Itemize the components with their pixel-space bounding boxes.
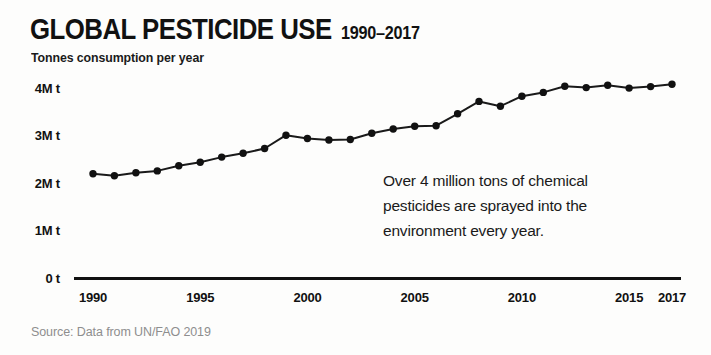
- data-point: [132, 169, 139, 176]
- data-point: [175, 162, 182, 169]
- data-point: [154, 167, 161, 174]
- chart-page: GLOBAL PESTICIDE USE 1990–2017 Tonnes co…: [0, 0, 711, 355]
- series-line: [93, 84, 672, 175]
- data-point: [197, 159, 204, 166]
- data-point: [647, 83, 654, 90]
- data-point: [454, 110, 461, 117]
- data-point: [668, 81, 675, 88]
- data-point: [604, 82, 611, 89]
- data-point: [304, 135, 311, 142]
- data-point: [497, 103, 504, 110]
- data-point: [218, 153, 225, 160]
- data-point: [625, 84, 632, 91]
- data-point: [368, 130, 375, 137]
- data-point: [540, 89, 547, 96]
- annotation-callout: Over 4 million tons of chemical pesticid…: [383, 168, 683, 243]
- data-point: [411, 123, 418, 130]
- annotation-line-1: Over 4 million tons of chemical: [383, 168, 683, 193]
- data-point: [89, 170, 96, 177]
- data-point: [561, 83, 568, 90]
- data-point: [111, 172, 118, 179]
- data-point: [282, 132, 289, 139]
- data-point: [239, 150, 246, 157]
- data-point: [261, 145, 268, 152]
- data-point: [325, 136, 332, 143]
- source-note: Source: Data from UN/FAO 2019: [31, 325, 211, 339]
- annotation-line-2: pesticides are sprayed into the: [383, 193, 683, 218]
- data-point: [390, 125, 397, 132]
- annotation-line-3: environment every year.: [383, 218, 683, 243]
- data-point: [475, 98, 482, 105]
- data-point: [583, 84, 590, 91]
- data-point: [518, 93, 525, 100]
- data-point: [432, 122, 439, 129]
- data-point: [347, 136, 354, 143]
- series-markers: [89, 81, 675, 180]
